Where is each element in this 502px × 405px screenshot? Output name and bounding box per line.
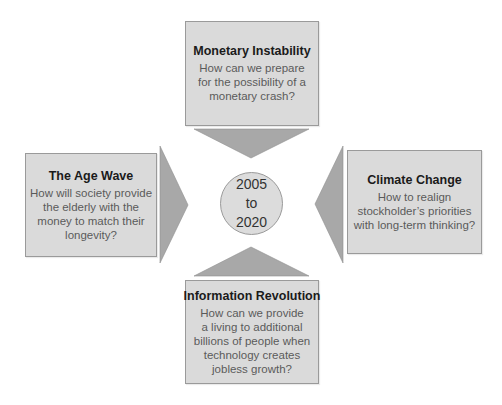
box-question: How can we provide a living to additiona… — [194, 306, 310, 376]
arrow-left-icon — [315, 146, 343, 263]
center-line-start-year: 2005 — [236, 175, 267, 194]
center-timeframe-label: 2005 to 2020 — [220, 172, 283, 235]
center-line-to: to — [246, 194, 258, 213]
box-title: Climate Change — [367, 173, 461, 188]
box-monetary-instability: Monetary Instability How can we prepare … — [185, 21, 319, 126]
box-age-wave: The Age Wave How will society provide th… — [25, 153, 157, 257]
box-question: How to realign stockholder’s priorities … — [354, 190, 475, 232]
box-question: How will society provide the elderly wit… — [30, 186, 152, 242]
box-title: The Age Wave — [49, 169, 134, 184]
arrow-up-icon — [194, 247, 309, 276]
box-climate-change: Climate Change How to realign stockholde… — [347, 150, 482, 254]
box-title: Information Revolution — [184, 289, 321, 304]
box-information-revolution: Information Revolution How can we provid… — [185, 280, 319, 384]
arrow-right-icon — [160, 146, 188, 263]
arrow-down-icon — [194, 129, 309, 158]
center-line-end-year: 2020 — [236, 213, 267, 232]
box-question: How can we prepare for the possibility o… — [198, 61, 306, 103]
box-title: Monetary Instability — [193, 44, 310, 59]
